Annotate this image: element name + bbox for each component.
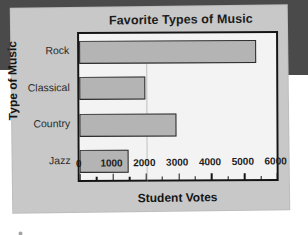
x-tick-label-1000: 1000 xyxy=(100,157,122,168)
x-tick-0 xyxy=(80,174,81,181)
x-tick-label-2000: 2000 xyxy=(133,157,155,168)
scan-speck-artifact xyxy=(18,232,22,235)
x-tick-label-6000: 6000 xyxy=(264,155,286,166)
x-minor-tick-2500 xyxy=(162,177,163,181)
x-minor-tick-3500 xyxy=(195,176,196,180)
chart-title: Favorite Types of Music xyxy=(81,11,281,27)
x-tick-3000 xyxy=(178,173,179,180)
y-tick-label-classical: Classical xyxy=(12,81,70,94)
x-tick-4000 xyxy=(211,173,212,180)
x-minor-tick-5500 xyxy=(260,176,261,180)
x-tick-label-4000: 4000 xyxy=(199,156,221,167)
x-tick-label-5000: 5000 xyxy=(232,156,254,167)
x-minor-tick-1500 xyxy=(129,177,130,181)
worksheet-card: Favorite Types of Music Type of Music St… xyxy=(11,5,289,212)
x-axis-title: Student Votes xyxy=(79,189,276,205)
screenshot-root: Favorite Types of Music Type of Music St… xyxy=(0,0,308,235)
bar-classical xyxy=(79,77,145,100)
y-tick-label-rock: Rock xyxy=(11,44,69,57)
y-tick-label-country: Country xyxy=(12,117,70,130)
x-tick-6000 xyxy=(277,173,278,180)
x-tick-label-0: 0 xyxy=(76,158,82,169)
y-tick-label-jazz: Jazz xyxy=(13,154,71,167)
x-tick-2000 xyxy=(145,174,146,181)
x-tick-5000 xyxy=(244,173,245,180)
x-minor-tick-500 xyxy=(96,177,97,181)
bar-country xyxy=(79,113,176,136)
x-tick-label-3000: 3000 xyxy=(166,157,188,168)
x-tick-1000 xyxy=(112,174,113,181)
bar-rock xyxy=(79,40,256,63)
x-minor-tick-4500 xyxy=(227,176,228,180)
